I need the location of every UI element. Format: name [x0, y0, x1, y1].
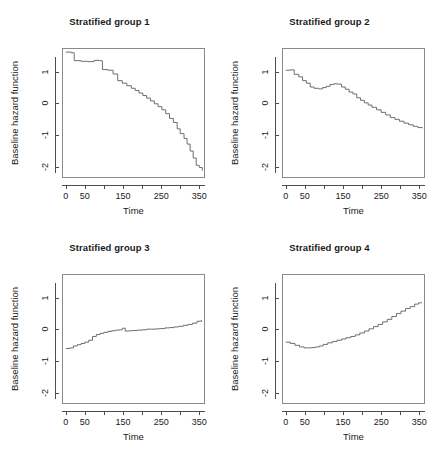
x-tick-label: 150: [335, 417, 350, 427]
x-tick-label: 50: [300, 417, 310, 427]
panel-stratified-group-3: Stratified group 3 Baseline hazard funct…: [0, 226, 219, 451]
y-tick-mark: [275, 72, 279, 73]
x-tick-label: 250: [374, 191, 389, 201]
x-tick-label: 150: [335, 191, 350, 201]
y-tick-mark: [55, 135, 59, 136]
x-tick-mark: [305, 411, 306, 415]
y-axis-line: [275, 283, 276, 399]
plot-area: [62, 48, 205, 178]
figure-panel-grid: Stratified group 1 Baseline hazard funct…: [0, 0, 439, 451]
x-tick-mark: [199, 411, 200, 415]
x-tick-mark: [180, 411, 181, 415]
x-tick-mark: [85, 185, 86, 189]
panel-title: Stratified group 3: [0, 242, 219, 253]
y-tick-mark: [55, 329, 59, 330]
y-tick-mark: [275, 298, 279, 299]
x-axis-title: Time: [62, 205, 205, 216]
y-tick-mark: [55, 103, 59, 104]
y-tick-mark: [275, 135, 279, 136]
x-tick-label: 150: [115, 417, 130, 427]
x-axis-line: [62, 411, 205, 412]
panel-stratified-group-2: Stratified group 2 Baseline hazard funct…: [220, 0, 439, 225]
x-tick-mark: [362, 411, 363, 415]
x-tick-label: 0: [63, 417, 68, 427]
y-tick-mark: [55, 361, 59, 362]
y-axis-line: [55, 57, 56, 173]
plot-area: [62, 274, 205, 404]
x-tick-mark: [381, 185, 382, 189]
y-tick-label: 1: [260, 65, 270, 79]
x-tick-label: 350: [192, 417, 207, 427]
x-tick-label: 0: [63, 191, 68, 201]
x-axis-line: [62, 185, 205, 186]
x-tick-mark: [324, 185, 325, 189]
y-tick-label: -1: [260, 354, 270, 368]
y-tick-mark: [55, 72, 59, 73]
x-tick-mark: [66, 411, 67, 415]
y-tick-label: 1: [40, 65, 50, 79]
x-tick-label: 250: [154, 191, 169, 201]
x-tick-mark: [161, 185, 162, 189]
x-tick-label: 250: [154, 417, 169, 427]
y-axis-title: Baseline hazard function: [8, 274, 20, 404]
y-tick-label: 0: [40, 322, 50, 336]
panel-title: Stratified group 2: [220, 16, 439, 27]
x-tick-label: 350: [412, 191, 427, 201]
x-tick-label: 50: [80, 191, 90, 201]
x-tick-mark: [286, 185, 287, 189]
x-tick-label: 50: [80, 417, 90, 427]
panel-stratified-group-1: Stratified group 1 Baseline hazard funct…: [0, 0, 219, 225]
x-tick-mark: [66, 185, 67, 189]
x-tick-mark: [199, 185, 200, 189]
y-axis-line: [55, 283, 56, 399]
y-axis-title: Baseline hazard function: [8, 48, 20, 178]
x-tick-mark: [104, 185, 105, 189]
x-tick-label: 150: [115, 191, 130, 201]
x-tick-mark: [362, 185, 363, 189]
x-tick-label: 0: [283, 417, 288, 427]
y-tick-mark: [275, 103, 279, 104]
y-tick-label: 1: [260, 291, 270, 305]
x-tick-mark: [400, 185, 401, 189]
x-tick-mark: [286, 411, 287, 415]
y-tick-label: 0: [260, 322, 270, 336]
y-tick-label: -1: [260, 128, 270, 142]
x-tick-label: 350: [192, 191, 207, 201]
x-axis-title: Time: [282, 431, 425, 442]
plot-area: [282, 48, 425, 178]
x-tick-mark: [142, 185, 143, 189]
x-axis-line: [282, 185, 425, 186]
y-tick-mark: [55, 393, 59, 394]
panel-stratified-group-4: Stratified group 4 Baseline hazard funct…: [220, 226, 439, 451]
x-tick-mark: [381, 411, 382, 415]
y-axis-title: Baseline hazard function: [228, 274, 240, 404]
y-tick-label: 1: [40, 291, 50, 305]
x-axis-title: Time: [62, 431, 205, 442]
y-tick-label: 0: [40, 96, 50, 110]
y-tick-mark: [275, 329, 279, 330]
plot-area: [282, 274, 425, 404]
x-tick-mark: [305, 185, 306, 189]
y-axis-line: [275, 57, 276, 173]
x-tick-mark: [161, 411, 162, 415]
y-tick-label: -2: [260, 160, 270, 174]
x-axis-line: [282, 411, 425, 412]
y-axis-title: Baseline hazard function: [228, 48, 240, 178]
x-tick-mark: [85, 411, 86, 415]
x-tick-mark: [419, 185, 420, 189]
x-tick-mark: [142, 411, 143, 415]
y-tick-label: 0: [260, 96, 270, 110]
panel-title: Stratified group 1: [0, 16, 219, 27]
y-tick-label: -1: [40, 128, 50, 142]
x-tick-mark: [419, 411, 420, 415]
panel-title: Stratified group 4: [220, 242, 439, 253]
x-tick-label: 350: [412, 417, 427, 427]
x-tick-mark: [343, 185, 344, 189]
x-tick-label: 50: [300, 191, 310, 201]
x-tick-mark: [123, 411, 124, 415]
y-tick-label: -2: [40, 386, 50, 400]
x-tick-mark: [123, 185, 124, 189]
x-axis-title: Time: [282, 205, 425, 216]
x-tick-mark: [400, 411, 401, 415]
y-tick-mark: [55, 298, 59, 299]
